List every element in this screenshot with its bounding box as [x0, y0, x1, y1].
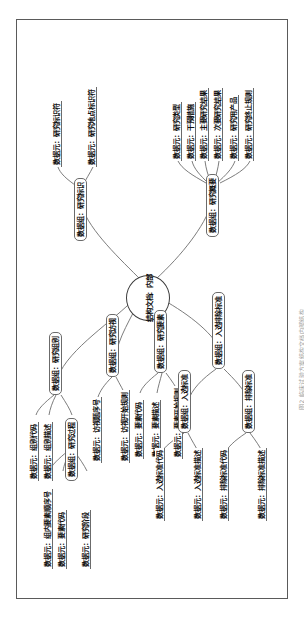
leaf-node[interactable]: 数据元：研究类型 [172, 102, 182, 161]
leaf-node-label: 数据元：排除标准描述 [257, 450, 266, 519]
group-node-inclusion-criteria[interactable]: 数据组：入选标准 [178, 370, 191, 433]
group-node-label: 数据组：研究要素 [156, 314, 165, 369]
leaf-node-label: 数据元：研究用产品 [229, 97, 238, 159]
group-node-label: 数据组：研究组别 [51, 336, 60, 391]
leaf-node-label: 数据元：组别描述 [43, 424, 52, 479]
leaf-node[interactable]: 数据元：研究用产品 [229, 95, 239, 161]
leaf-node-label: 数据元：要素代码 [57, 512, 66, 567]
leaf-node-label: 数据元：入选标准描述 [193, 450, 202, 519]
leaf-node-label: 数据元：研究标识符 [52, 103, 61, 165]
group-node-label: 数据组：入选标准 [180, 374, 189, 429]
figure-caption: 图2 临床试验方案结构文档内部结构 [298, 309, 305, 410]
leaf-node-label: 数据元：研究地点标识符 [87, 89, 96, 165]
group-node-study-process[interactable]: 数据组：研究过程 [65, 418, 78, 481]
leaf-node-label: 数据元：组别代码 [29, 424, 38, 479]
leaf-node-label: 数据元：访视题序号 [92, 399, 101, 461]
rotated-diagram-canvas: 结构文档：内部 数据组：研究组别 数据元：组别代码 数据元：组别描述 数据组：研… [16, 19, 288, 599]
leaf-node[interactable]: 数据元：入选标准描述 [193, 448, 203, 521]
group-node-label: 数据组：研究概要 [208, 178, 217, 233]
group-node-label: 数据组：研究标识 [76, 182, 85, 237]
group-node-label: 数据组：入选排除标准 [214, 296, 223, 365]
leaf-node-label: 数据元：干预措施 [186, 104, 195, 159]
leaf-node-label: 数据元：排除标准代码 [219, 450, 228, 519]
leaf-node[interactable]: 数据元：次要研究结果 [213, 88, 223, 161]
figure-page: 结构文档：内部 数据组：研究组别 数据元：组别代码 数据元：组别描述 数据组：研… [0, 0, 304, 618]
leaf-node-label: 数据元：入选标准代码 [155, 450, 164, 519]
group-node-study-visit[interactable]: 数据组：研究访视 [106, 314, 119, 377]
leaf-node[interactable]: 数据元：入选标准代码 [155, 448, 165, 521]
leaf-node[interactable]: 数据元：要素代码 [57, 510, 67, 569]
leaf-node[interactable]: 数据元：组内要素顺序号 [43, 489, 53, 569]
leaf-node[interactable]: 数据元：研究标识符 [52, 101, 62, 167]
leaf-node-label: 数据元：研究类型 [172, 104, 181, 159]
group-node-label: 数据组：研究访视 [108, 318, 117, 373]
leaf-node-label: 数据元：访视开始规则 [120, 392, 129, 461]
leaf-node[interactable]: 数据元：主要研究结果 [199, 88, 209, 161]
group-node-study-summary[interactable]: 数据组：研究概要 [206, 174, 219, 237]
leaf-node[interactable]: 数据元：要素代码 [134, 400, 144, 459]
leaf-node[interactable]: 数据元：访视题序号 [92, 397, 102, 463]
leaf-node[interactable]: 数据元：研究阶段 [81, 510, 91, 569]
leaf-node[interactable]: 数据元：排除标准代码 [219, 448, 229, 521]
leaf-node-label: 数据元：研究阶段 [81, 512, 90, 567]
leaf-node-label: 数据元：次要研究结果 [213, 90, 222, 159]
leaf-node-label: 数据元：主要研究结果 [199, 90, 208, 159]
leaf-node[interactable]: 数据元：研究地点标识符 [87, 87, 97, 167]
leaf-node[interactable]: 数据元：访视开始规则 [120, 390, 130, 463]
leaf-node-label: 数据元：研究终止规则 [244, 90, 253, 159]
group-node-study-element[interactable]: 数据组：研究要素 [154, 310, 167, 373]
group-node-study-identification[interactable]: 数据组：研究标识 [74, 178, 87, 241]
group-node-inclusion-exclusion[interactable]: 数据组：入选排除标准 [212, 292, 225, 369]
leaf-node[interactable]: 数据元：组别描述 [43, 422, 53, 481]
mindmap-canvas: 结构文档：内部 数据组：研究组别 数据元：组别代码 数据元：组别描述 数据组：研… [16, 19, 288, 599]
root-node-label: 结构文档：内部 [143, 274, 154, 322]
group-node-label: 数据组：研究过程 [67, 422, 76, 477]
leaf-node[interactable]: 数据元：组别代码 [29, 422, 39, 481]
group-node-study-group[interactable]: 数据组：研究组别 [49, 332, 62, 395]
group-node-exclusion-criteria[interactable]: 数据组：排除标准 [242, 370, 255, 433]
leaf-node[interactable]: 数据元：研究终止规则 [244, 88, 254, 161]
leaf-node-label: 数据元：要素代码 [134, 402, 143, 457]
group-node-label: 数据组：排除标准 [244, 374, 253, 429]
leaf-node[interactable]: 数据元：干预措施 [186, 102, 196, 161]
leaf-node[interactable]: 数据元：排除标准描述 [257, 448, 267, 521]
leaf-node-label: 数据元：组内要素顺序号 [43, 491, 52, 567]
